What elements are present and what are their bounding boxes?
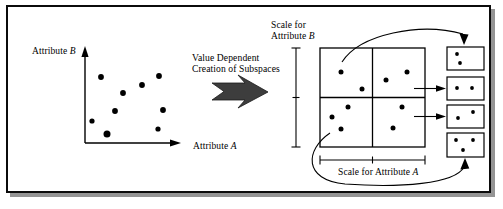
subspace-box-2: [447, 77, 484, 100]
subspace-box-3: [447, 105, 484, 128]
grid-point: [405, 70, 410, 75]
grid-point: [400, 105, 405, 110]
subspace-box-1-rect: [447, 47, 484, 70]
subspace-box-2-rect: [447, 77, 484, 100]
grid-point: [360, 87, 365, 92]
subspace-box-dot: [455, 52, 459, 56]
grid-point: [330, 115, 335, 120]
connector-bottomright-arrowhead: [436, 113, 446, 119]
scale-bar-a: [320, 156, 425, 165]
subspace-box-dot: [455, 86, 459, 90]
subspace-layer: [0, 0, 503, 209]
connector-bottomleft-arrowhead: [460, 158, 469, 170]
connector-topleft-arrowhead: [460, 34, 469, 46]
connector-topright-arrowhead: [436, 85, 446, 91]
grid-point: [346, 105, 351, 110]
subspace-box-1: [447, 47, 484, 70]
subspace-box-dot: [471, 110, 475, 114]
subspace-box-3-rect: [447, 105, 484, 128]
subspace-box-dot: [454, 138, 458, 142]
scale-bar-b: [292, 48, 301, 147]
subspace-box-dot: [458, 61, 462, 65]
grid-point: [384, 78, 389, 83]
subspace-box-dot: [470, 86, 474, 90]
grid-point: [339, 70, 344, 75]
subspace-box-dot: [471, 138, 475, 142]
grid-point: [391, 126, 396, 131]
subspace-grid: [320, 48, 425, 147]
figure-root: Attribute B Attribute A Value Dependent …: [0, 0, 503, 209]
subspace-box-4-rect: [447, 133, 484, 157]
subspace-box-4: [447, 133, 484, 157]
subspace-box-dot: [461, 148, 465, 152]
subspace-box-dot: [456, 116, 460, 120]
grid-point: [339, 127, 344, 132]
